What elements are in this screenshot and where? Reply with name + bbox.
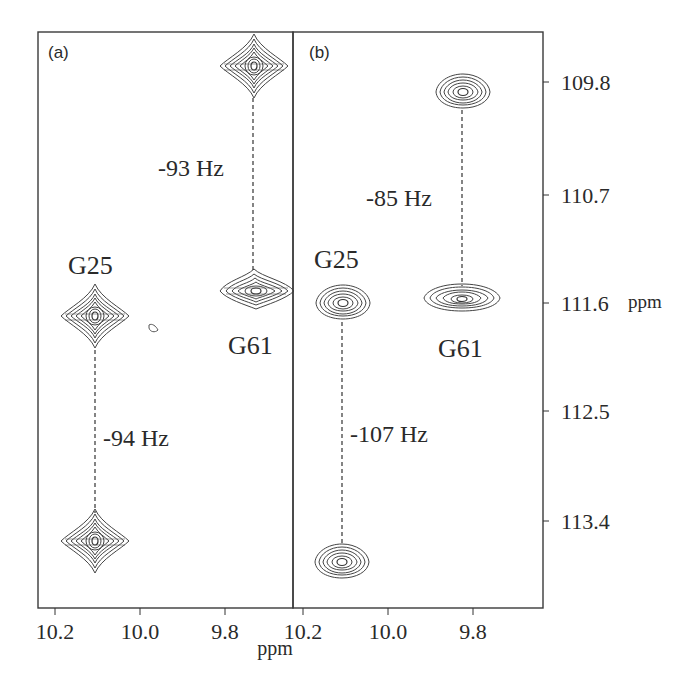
x-tick-a-9.8: 9.8 <box>211 619 239 644</box>
y-tick-111.6: 111.6 <box>561 291 609 316</box>
peak-g61-upper <box>436 74 490 108</box>
peak-g25-lower <box>315 544 369 578</box>
peak-g61-upper <box>220 34 288 98</box>
coupling-label-g25: -94 Hz <box>103 425 169 451</box>
coupling-label-g25: -107 Hz <box>350 421 428 447</box>
panel-b-label: (b) <box>309 43 330 62</box>
x-tick-a-10.2: 10.2 <box>36 619 75 644</box>
x-tick-a-10.0: 10.0 <box>121 619 160 644</box>
panel-a-x-axis: 10.2 10.0 9.8 <box>36 608 239 644</box>
peak-g61-lower <box>424 284 500 311</box>
residue-label-g25: G25 <box>68 251 113 280</box>
peak-g25-lower <box>61 509 129 573</box>
residue-label-g25: G25 <box>314 245 359 274</box>
y-axis-right: 109.8 110.7 111.6 ppm 112.5 113.4 <box>543 70 662 534</box>
noise-contour <box>149 324 158 331</box>
residue-label-g61: G61 <box>228 331 273 360</box>
peak-g25-upper <box>316 285 370 319</box>
x-tick-b-9.8: 9.8 <box>459 619 487 644</box>
x-tick-b-10.0: 10.0 <box>369 619 408 644</box>
y-tick-109.8: 109.8 <box>561 70 611 95</box>
panel-b-x-axis: 10.2 10.0 9.8 <box>284 608 487 644</box>
y-tick-112.5: 112.5 <box>561 399 610 424</box>
panel-a: (a) -93 Hz G61 G25 -94 Hz 10.2 <box>36 32 294 644</box>
coupling-label-g61: -93 Hz <box>158 155 224 181</box>
coupling-label-g61: -85 Hz <box>366 185 432 211</box>
residue-label-g61: G61 <box>438 334 483 363</box>
y-tick-110.7: 110.7 <box>561 183 610 208</box>
x-axis-unit-label: ppm <box>257 637 293 660</box>
y-tick-113.4: 113.4 <box>561 509 610 534</box>
y-axis-unit-label: ppm <box>628 291 662 312</box>
panel-a-label: (a) <box>48 43 69 62</box>
panel-b-frame <box>293 32 543 608</box>
panel-b: (b) -85 Hz G61 G25 -107 Hz 10.2 10.0 <box>284 32 543 644</box>
nmr-figure: (a) -93 Hz G61 G25 -94 Hz 10.2 <box>0 0 700 690</box>
peak-g25-upper <box>61 284 129 348</box>
peak-g61-lower <box>220 269 294 309</box>
